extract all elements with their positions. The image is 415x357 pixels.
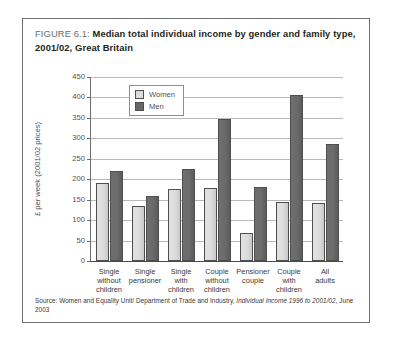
- bar-group: [271, 77, 307, 261]
- y-axis-title: £ per week (2001/02 prices): [33, 122, 42, 216]
- x-axis-label-line: children: [91, 285, 127, 294]
- bar-women: [276, 202, 289, 261]
- x-axis-label-line: [235, 285, 271, 294]
- legend-swatch-men-icon: [135, 102, 144, 111]
- bar-women: [96, 183, 109, 261]
- y-tick-label: 450: [55, 73, 85, 81]
- x-axis-labels: SinglewithoutchildrenSinglepensioner Sin…: [91, 267, 343, 295]
- x-axis-label-line: [127, 285, 163, 294]
- legend-label-women: Women: [149, 90, 175, 99]
- source-prefix: Source: Women and Equality Unit/ Departm…: [35, 297, 235, 304]
- figure-number: FIGURE 6.1:: [35, 28, 90, 39]
- x-axis-label: Alladults: [307, 267, 343, 295]
- bar-group: [235, 77, 271, 261]
- bar-women: [132, 206, 145, 261]
- bar-men: [326, 144, 339, 261]
- x-axis-label-line: Single: [91, 267, 127, 276]
- figure-source: Source: Women and Equality Unit/ Departm…: [35, 296, 361, 314]
- x-axis-label: Singlepensioner: [127, 267, 163, 295]
- bar-men: [182, 169, 195, 261]
- x-axis-label-line: children: [271, 285, 307, 294]
- plot-area: 050100150200250300350400450 £ per week (…: [91, 77, 343, 261]
- y-tick-label: 100: [55, 216, 85, 224]
- x-axis-label-line: children: [163, 285, 199, 294]
- x-axis-label: Pensionercouple: [235, 267, 271, 295]
- x-axis-label-line: Couple: [199, 267, 235, 276]
- figure-container: FIGURE 6.1: Median total individual inco…: [22, 18, 370, 323]
- y-tick-label: 300: [55, 134, 85, 142]
- bar-men: [254, 187, 267, 261]
- chart-legend: Women Men: [129, 85, 184, 116]
- x-axis-label-line: with: [271, 276, 307, 285]
- x-axis-label: Singlewithchildren: [163, 267, 199, 295]
- x-axis-label-line: [307, 285, 343, 294]
- x-axis-label-line: without: [91, 276, 127, 285]
- bar-women: [312, 203, 325, 261]
- x-axis-label-line: Single: [127, 267, 163, 276]
- bar-men: [110, 171, 123, 261]
- y-tick-label: 150: [55, 196, 85, 204]
- x-axis-label-line: Single: [163, 267, 199, 276]
- y-tick-label: 250: [55, 155, 85, 163]
- bar-chart: 050100150200250300350400450 £ per week (…: [33, 71, 361, 299]
- bar-women: [204, 188, 217, 261]
- x-axis-label-line: Couple: [271, 267, 307, 276]
- x-axis-label-line: Pensioner: [235, 267, 271, 276]
- bar-women: [240, 233, 253, 261]
- bar-group: [199, 77, 235, 261]
- legend-label-men: Men: [149, 102, 164, 111]
- source-publication: Individual Income 1996 to 2001/02,: [236, 297, 337, 304]
- x-axis-label-line: pensioner: [127, 276, 163, 285]
- figure-caption: FIGURE 6.1: Median total individual inco…: [35, 27, 357, 55]
- legend-swatch-women-icon: [135, 90, 144, 99]
- bar-men: [290, 95, 303, 261]
- y-tick-label: 0: [55, 257, 85, 265]
- x-axis-label: Couplewithchildren: [271, 267, 307, 295]
- x-axis-label: Couplewithoutchildren: [199, 267, 235, 295]
- bar-men: [146, 196, 159, 261]
- legend-item-men: Men: [135, 102, 175, 111]
- legend-item-women: Women: [135, 90, 175, 99]
- x-axis-label: Singlewithoutchildren: [91, 267, 127, 295]
- bar-group: [91, 77, 127, 261]
- y-tick-label: 350: [55, 114, 85, 122]
- bar-women: [168, 189, 181, 261]
- x-axis-label-line: with: [163, 276, 199, 285]
- x-axis-label-line: All: [307, 267, 343, 276]
- y-tick-label: 400: [55, 93, 85, 101]
- x-axis-label-line: children: [199, 285, 235, 294]
- x-axis-label-line: couple: [235, 276, 271, 285]
- x-axis-label-line: without: [199, 276, 235, 285]
- bar-group: [307, 77, 343, 261]
- bar-men: [218, 119, 231, 261]
- y-tick-label: 50: [55, 237, 85, 245]
- y-tick: [87, 261, 91, 262]
- y-tick-label: 200: [55, 175, 85, 183]
- x-axis-label-line: adults: [307, 276, 343, 285]
